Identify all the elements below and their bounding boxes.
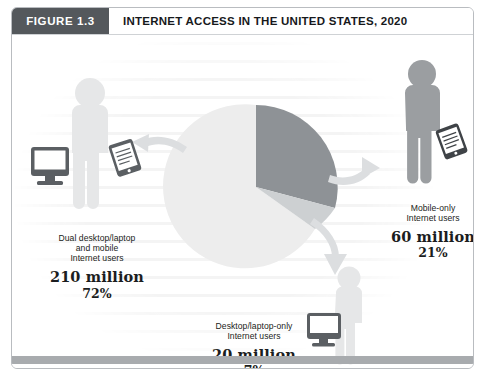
figure-number-tag: FIGURE 1.3 <box>12 8 109 34</box>
person-silhouette-icon <box>405 60 440 184</box>
curved-arrow-left-icon <box>132 134 187 153</box>
figure-frame: FIGURE 1.3 INTERNET ACCESS IN THE UNITED… <box>11 7 474 369</box>
callout-desktop-percent: 7% <box>184 364 324 369</box>
desktop-monitor-icon <box>31 147 69 185</box>
figure-bottom-rule <box>12 356 473 364</box>
person-silhouette-icon <box>72 78 108 209</box>
curved-arrow-down-icon <box>310 218 347 275</box>
callout-desktop-line1: Desktop/laptop-only <box>184 321 324 331</box>
callout-dual-line3: Internet users <box>23 253 171 263</box>
callout-mobile-percent: 21% <box>381 246 473 261</box>
figure-header: FIGURE 1.3 INTERNET ACCESS IN THE UNITED… <box>12 8 473 35</box>
callout-dual-value: 210 million <box>23 268 171 285</box>
callout-mobile-value: 60 million <box>381 228 473 245</box>
callout-dual-percent: 72% <box>23 287 171 302</box>
figure-graphics <box>12 35 473 369</box>
callout-mobile-line2: Internet users <box>381 213 473 223</box>
callout-desktop-line2: Internet users <box>184 331 324 341</box>
callout-dual-line2: and mobile <box>23 243 171 253</box>
callout-mobile-line1: Mobile-only <box>381 203 473 213</box>
callout-dual-users: Dual desktop/laptop and mobile Internet … <box>23 233 171 301</box>
pie-chart <box>163 104 338 268</box>
screenshot-page: FIGURE 1.3 INTERNET ACCESS IN THE UNITED… <box>0 0 485 382</box>
figure-body: Dual desktop/laptop and mobile Internet … <box>12 35 473 369</box>
callout-dual-line1: Dual desktop/laptop <box>23 233 171 243</box>
callout-mobile-users: Mobile-only Internet users 60 million 21… <box>381 203 473 261</box>
figure-title: INTERNET ACCESS IN THE UNITED STATES, 20… <box>109 8 473 34</box>
